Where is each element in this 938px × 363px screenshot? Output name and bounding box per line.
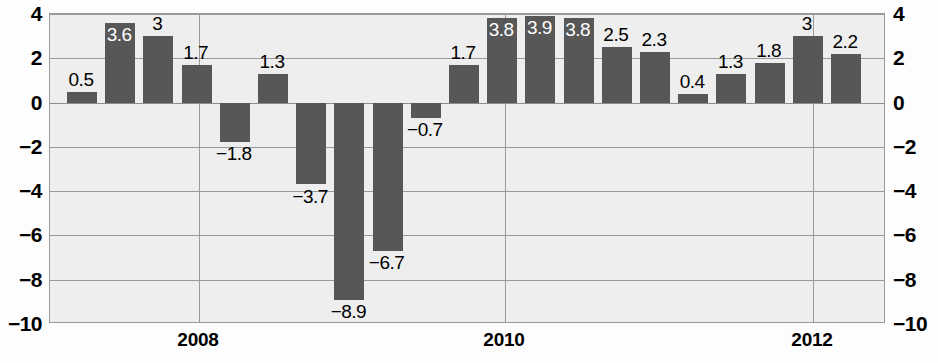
bar-value-label: 3.6 — [107, 25, 132, 44]
y-axis-tick-label-right: 2 — [893, 47, 938, 68]
bar — [67, 92, 97, 103]
bar — [373, 103, 403, 251]
bar-value-label: −6.7 — [369, 253, 405, 272]
y-axis-tick-label-left: −10 — [0, 313, 42, 334]
bar-value-label: 3.8 — [489, 20, 514, 39]
bar — [602, 47, 632, 102]
bar — [182, 65, 212, 103]
bar-value-label: 1.3 — [718, 52, 743, 71]
bar-value-label: 1.7 — [451, 43, 476, 62]
bar-value-label: −3.7 — [292, 187, 328, 206]
bar — [640, 52, 670, 103]
bar — [296, 103, 326, 185]
bar-value-label: 3 — [802, 14, 812, 33]
y-axis-tick-label-right: 4 — [893, 3, 938, 24]
y-axis-tick-label-left: −8 — [0, 269, 42, 290]
y-axis-tick-label-left: −4 — [0, 180, 42, 201]
bar-chart: 0.53.631.7−1.81.3−3.7−8.9−6.7−0.71.73.83… — [0, 0, 938, 363]
y-axis-tick-label-right: −2 — [893, 136, 938, 157]
y-axis-tick-label-right: −8 — [893, 269, 938, 290]
gridline-horizontal — [50, 280, 884, 281]
bar — [678, 94, 708, 103]
bar — [334, 103, 364, 300]
gridline-horizontal — [50, 103, 884, 104]
bar-value-label: 2.5 — [603, 25, 628, 44]
y-axis-tick-label-left: −2 — [0, 136, 42, 157]
bar — [143, 36, 173, 102]
y-axis-tick-label-left: 0 — [0, 92, 42, 113]
y-axis-tick-label-right: −10 — [893, 313, 938, 334]
gridline-horizontal — [50, 147, 884, 148]
y-axis-tick-label-left: −6 — [0, 224, 42, 245]
y-axis-tick-label-left: 4 — [0, 3, 42, 24]
bar-value-label: 3.9 — [527, 18, 552, 37]
gridline-horizontal — [50, 235, 884, 236]
bar-value-label: 1.8 — [756, 41, 781, 60]
y-axis-tick-label-right: −6 — [893, 224, 938, 245]
bar-value-label: 1.3 — [260, 52, 285, 71]
x-axis-tick-label: 2012 — [791, 330, 832, 349]
bar — [716, 74, 746, 103]
y-axis-tick-label-right: −4 — [893, 180, 938, 201]
x-axis-tick-label: 2010 — [483, 330, 524, 349]
bar — [793, 36, 823, 102]
bar-value-label: −8.9 — [331, 302, 367, 321]
bar-value-label: 2.2 — [833, 32, 858, 51]
bar — [220, 103, 250, 143]
bar — [449, 65, 479, 103]
bar-value-label: 3 — [152, 14, 162, 33]
gridline-horizontal — [50, 14, 884, 15]
bar — [755, 63, 785, 103]
bar-value-label: 1.7 — [183, 43, 208, 62]
bar-value-label: 0.5 — [69, 70, 94, 89]
bar — [258, 74, 288, 103]
bar-value-label: 2.3 — [642, 30, 667, 49]
bar-value-label: 0.4 — [680, 72, 705, 91]
bar — [411, 103, 441, 119]
bar-value-label: −1.8 — [216, 144, 252, 163]
y-axis-tick-label-right: 0 — [893, 92, 938, 113]
y-axis-tick-label-left: 2 — [0, 47, 42, 68]
bar-value-label: −0.7 — [407, 120, 443, 139]
bar — [831, 54, 861, 103]
gridline-horizontal — [50, 191, 884, 192]
bar-value-label: 3.8 — [565, 20, 590, 39]
x-axis-tick-label: 2008 — [177, 330, 218, 349]
